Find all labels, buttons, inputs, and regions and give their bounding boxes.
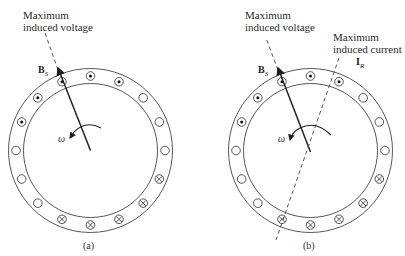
caption-a: (a) [83,240,94,251]
max-voltage-label-a-line2: induced voltage [23,21,93,33]
empty-slot-icon [12,146,21,155]
max-voltage-label-b-line1: Maximum [245,9,291,21]
empty-slot-icon [161,146,170,155]
empty-slot-icon [359,94,368,103]
current-out-of-page-icon [237,118,246,127]
bs-symbol-b: BS [258,64,268,78]
current-into-page-icon [139,199,148,208]
panel-a-stator [9,30,173,233]
current-out-of-page-icon [34,94,43,103]
current-into-page-icon [375,175,384,184]
empty-slot-icon [254,199,263,208]
current-into-page-icon [115,215,124,224]
current-into-page-icon [278,215,287,224]
empty-slot-icon [232,146,241,155]
panel-b-stator [229,38,393,240]
empty-slot-icon [17,175,26,184]
current-into-page-icon [335,215,344,224]
current-into-page-icon [155,175,164,184]
max-voltage-label-b-line2: induced voltage [245,21,315,33]
current-into-page-icon [58,215,67,224]
current-into-page-icon [86,221,95,230]
current-out-of-page-icon [115,77,124,86]
max-voltage-label-a-line1: Maximum [23,9,69,21]
current-out-of-page-icon [86,72,95,81]
omega-label-a: ω [58,133,65,144]
ir-symbol: IR [356,56,364,70]
max-current-label-line2: induced current [333,43,402,55]
empty-slot-icon [237,175,246,184]
omega-label-b: ω [278,133,285,144]
empty-slot-icon [139,94,148,103]
empty-slot-icon [375,118,384,127]
empty-slot-icon [155,118,164,127]
current-into-page-icon [306,221,315,230]
current-out-of-page-icon [306,72,315,81]
rotation-arrow-icon-b [290,125,331,140]
slot-group-a [12,72,170,230]
bs-symbol-a: BS [38,64,48,78]
empty-slot-icon [34,199,43,208]
current-out-of-page-icon [254,94,263,103]
max-current-label-line1: Maximum [333,31,379,43]
current-out-of-page-icon [17,118,26,127]
empty-slot-icon [381,146,390,155]
current-out-of-page-icon [335,77,344,86]
caption-b: (b) [303,240,315,251]
current-into-page-icon [359,199,368,208]
